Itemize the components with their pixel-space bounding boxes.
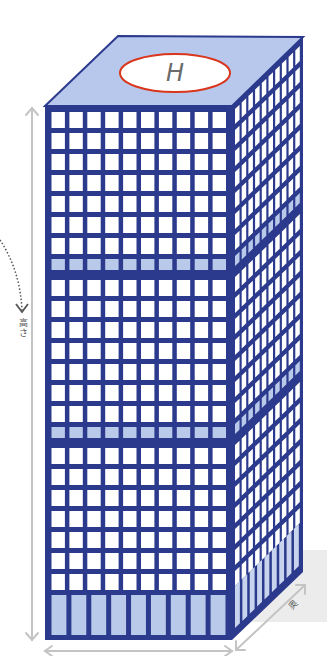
- window: [105, 301, 118, 317]
- window: [195, 553, 208, 569]
- floor-band: [141, 259, 154, 270]
- window: [87, 469, 100, 485]
- window: [123, 343, 136, 359]
- window: [141, 322, 154, 338]
- window: [87, 175, 100, 191]
- window: [69, 322, 82, 338]
- window: [69, 343, 82, 359]
- window: [213, 490, 226, 506]
- window: [123, 238, 136, 254]
- window: [105, 364, 118, 380]
- window: [195, 532, 208, 548]
- window: [123, 406, 136, 422]
- window: [213, 301, 226, 317]
- base-panel: [111, 595, 126, 635]
- window: [52, 217, 65, 233]
- floor-band: [177, 427, 190, 438]
- window: [69, 490, 82, 506]
- window: [141, 175, 154, 191]
- side-base-panel: [257, 560, 262, 607]
- window: [177, 343, 190, 359]
- window: [105, 154, 118, 170]
- window: [159, 196, 172, 212]
- window: [69, 301, 82, 317]
- window: [52, 175, 65, 191]
- window: [87, 511, 100, 527]
- floor-band: [123, 259, 136, 270]
- floor-band: [52, 259, 65, 270]
- window: [52, 322, 65, 338]
- window: [141, 133, 154, 149]
- window: [159, 133, 172, 149]
- window: [52, 301, 65, 317]
- side-base-panel: [264, 553, 269, 600]
- window: [105, 133, 118, 149]
- window: [159, 217, 172, 233]
- window: [141, 217, 154, 233]
- side-base-panel: [294, 524, 299, 571]
- window: [141, 301, 154, 317]
- window: [159, 490, 172, 506]
- window: [141, 574, 154, 590]
- side-base-panel: [242, 574, 247, 621]
- window: [87, 196, 100, 212]
- floor-band: [141, 427, 154, 438]
- window: [141, 196, 154, 212]
- floor-band: [87, 427, 100, 438]
- window: [69, 511, 82, 527]
- building-diagram: H: [0, 0, 327, 656]
- floor-band: [159, 427, 172, 438]
- window: [159, 301, 172, 317]
- window: [52, 385, 65, 401]
- window: [123, 385, 136, 401]
- window: [105, 490, 118, 506]
- window: [52, 280, 65, 296]
- window: [52, 532, 65, 548]
- window: [52, 574, 65, 590]
- window: [141, 406, 154, 422]
- window: [159, 343, 172, 359]
- window: [213, 133, 226, 149]
- window: [105, 511, 118, 527]
- window: [123, 196, 136, 212]
- window: [195, 133, 208, 149]
- window: [195, 406, 208, 422]
- window: [195, 196, 208, 212]
- window: [213, 196, 226, 212]
- window: [87, 301, 100, 317]
- window: [195, 154, 208, 170]
- window: [105, 112, 118, 128]
- window: [87, 280, 100, 296]
- window: [123, 469, 136, 485]
- side-base-panel: [250, 567, 255, 614]
- window: [177, 490, 190, 506]
- window: [52, 154, 65, 170]
- window: [105, 217, 118, 233]
- window: [141, 280, 154, 296]
- window: [123, 217, 136, 233]
- window: [159, 574, 172, 590]
- window: [195, 364, 208, 380]
- window: [195, 301, 208, 317]
- window: [177, 112, 190, 128]
- window: [87, 133, 100, 149]
- window: [105, 406, 118, 422]
- window: [159, 385, 172, 401]
- window: [123, 511, 136, 527]
- window: [123, 112, 136, 128]
- base-panel: [191, 595, 206, 635]
- window: [87, 217, 100, 233]
- window: [123, 448, 136, 464]
- window: [141, 112, 154, 128]
- window: [177, 301, 190, 317]
- window: [159, 469, 172, 485]
- dotted-arrow-head: [16, 304, 28, 312]
- window: [87, 532, 100, 548]
- window: [177, 532, 190, 548]
- window: [105, 448, 118, 464]
- window: [159, 511, 172, 527]
- window: [69, 406, 82, 422]
- window: [123, 574, 136, 590]
- window: [195, 280, 208, 296]
- height-label: 高さ: [17, 318, 30, 338]
